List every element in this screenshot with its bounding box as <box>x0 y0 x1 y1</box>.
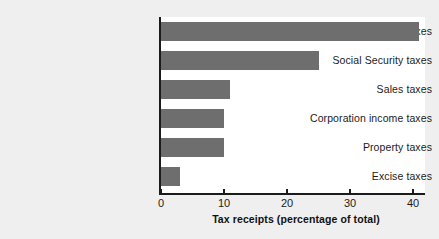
bar-social-security-taxes <box>161 51 319 70</box>
category-label-4: Property taxes <box>287 141 439 153</box>
bar-sales-taxes <box>161 80 230 99</box>
x-tick-label-4: 40 <box>407 197 419 209</box>
x-tick-mark-3 <box>349 189 351 195</box>
bar-personal-income-taxes <box>161 22 419 41</box>
category-label-5: Excise taxes <box>287 170 439 182</box>
x-tick-label-3: 30 <box>344 197 356 209</box>
bar-corporation-income-taxes <box>161 109 224 128</box>
plot-area <box>160 17 425 194</box>
x-tick-label-0: 0 <box>158 197 164 209</box>
category-label-3: Corporation income taxes <box>287 112 439 124</box>
x-tick-mark-2 <box>286 189 288 195</box>
bar-chart-figure: Personal income taxes Social Security ta… <box>0 0 439 239</box>
x-axis-title: Tax receipts (percentage of total) <box>160 213 432 225</box>
bar-excise-taxes <box>161 167 180 186</box>
x-tick-mark-0 <box>160 189 162 195</box>
x-tick-label-1: 10 <box>218 197 230 209</box>
x-tick-mark-1 <box>223 189 225 195</box>
category-label-2: Sales taxes <box>287 83 439 95</box>
bar-property-taxes <box>161 138 224 157</box>
x-tick-label-2: 20 <box>281 197 293 209</box>
x-axis-line <box>159 193 425 195</box>
x-tick-mark-4 <box>412 189 414 195</box>
